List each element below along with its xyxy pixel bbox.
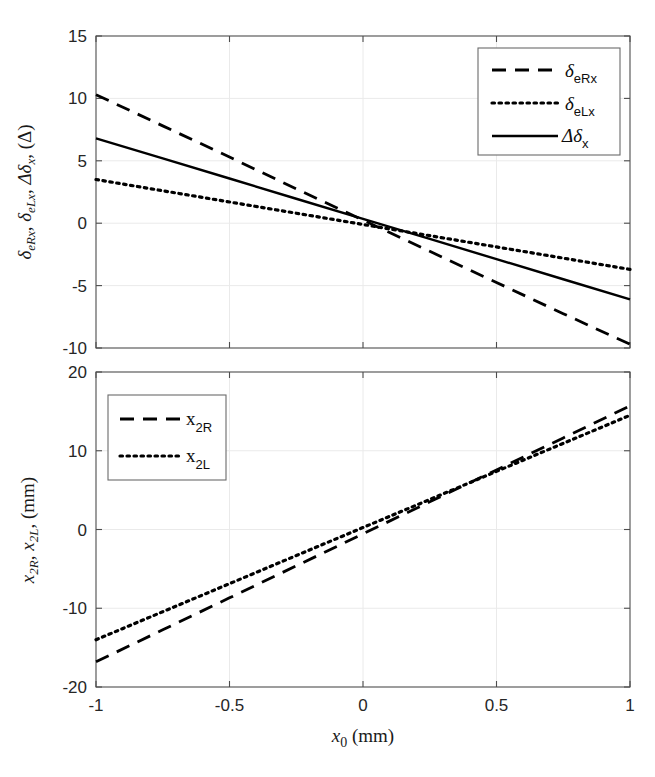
svg-text:δeRx, δeLx, Δδx, (Δ): δeRx, δeLx, Δδx, (Δ): [14, 124, 38, 259]
ylabel-top-p5: ,: [14, 185, 35, 195]
figure-title: [0, 0, 655, 3]
y-tick-label: -10: [62, 339, 87, 358]
ylabel-top-p6: Δδ: [14, 163, 35, 185]
y-tick-label: 20: [68, 363, 87, 382]
y-tick-label: 0: [78, 521, 87, 540]
bottom-panel: -20-1001020 -1-0.500.51 x2R, x2L, (mm) x…: [17, 363, 635, 750]
y-tick-label: 10: [68, 442, 87, 461]
ylabel-bot-p2: ,: [17, 551, 38, 561]
y-tick-label: 10: [68, 89, 87, 108]
svg-text:x2R, x2L, (mm): x2R, x2L, (mm): [17, 477, 41, 584]
xlabel-p2: (mm): [347, 725, 394, 747]
legend-top-2-base: Δδ: [561, 125, 583, 146]
top-panel-y-tick-labels: -10-5051015: [62, 27, 87, 358]
legend-top-0-sub: eRx: [574, 71, 598, 86]
ylabel-bot-p4: 2L: [26, 529, 41, 543]
legend-bot-1-sub: 2L: [196, 457, 210, 472]
legend-bot-0-sub: 2R: [196, 420, 213, 435]
xlabel-p1: 0: [340, 735, 347, 750]
y-tick-label: -10: [62, 599, 87, 618]
bottom-panel-x-tick-labels: -1-0.500.51: [88, 696, 634, 715]
bottom-panel-y-tick-labels: -20-1001020: [62, 363, 87, 697]
x-tick-label: 1: [625, 696, 634, 715]
y-tick-label: -5: [72, 277, 87, 296]
legend-bot-1-base: x: [186, 445, 196, 466]
ylabel-top-p1: eRx: [23, 231, 38, 251]
ylabel-bot-p1: 2R: [26, 560, 41, 575]
legend-top-1-sub: eLx: [574, 104, 595, 119]
x-tick-label: 0: [358, 696, 367, 715]
y-tick-label: 0: [78, 214, 87, 233]
y-tick-label: 5: [78, 152, 87, 171]
top-panel: -10-5051015 δeRx, δeLx, Δδx, (Δ) δeRx: [14, 27, 630, 358]
bottom-panel-y-axis-label: x2R, x2L, (mm): [17, 477, 41, 584]
ylabel-bot-p5: , (mm): [17, 477, 39, 529]
figure-container: -10-5051015 δeRx, δeLx, Δδx, (Δ) δeRx: [0, 0, 655, 777]
x-tick-label: -1: [88, 696, 103, 715]
ylabel-top-p4: eLx: [23, 194, 38, 213]
bottom-panel-x-axis-label: x0 (mm): [331, 725, 394, 750]
ylabel-top-p8: , (Δ): [14, 124, 36, 158]
legend-bot-0-base: x: [186, 408, 196, 429]
y-tick-label: 15: [68, 27, 87, 46]
top-panel-legend[interactable]: δeRx δeLx Δδx: [478, 48, 620, 155]
x-tick-label: -0.5: [215, 696, 244, 715]
legend-top-2-sub: x: [582, 136, 589, 151]
y-tick-label: -20: [62, 678, 87, 697]
x-tick-label: 0.5: [485, 696, 509, 715]
bottom-panel-legend[interactable]: x2R x2L: [108, 395, 226, 480]
matlab-figure-plot: -10-5051015 δeRx, δeLx, Δδx, (Δ) δeRx: [0, 0, 655, 777]
ylabel-top-p2: ,: [14, 222, 35, 232]
top-panel-y-axis-label: δeRx, δeLx, Δδx, (Δ): [14, 124, 38, 259]
